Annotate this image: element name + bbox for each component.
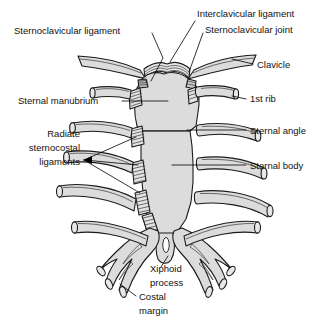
anatomy-figure: Sternoclavicular ligament Interclavicula… <box>0 0 333 323</box>
label-costal-line1: Costal <box>139 291 166 302</box>
label-costal-line2: margin <box>139 305 168 316</box>
label-xiphoid-line1: Xiphoid <box>150 263 182 274</box>
sternum-diagram: Sternoclavicular ligament Interclavicula… <box>0 0 333 323</box>
label-radiate-line3: ligaments <box>39 156 80 167</box>
xiphoid-foramen <box>163 238 169 253</box>
label-sternoclavicular-ligament: Sternoclavicular ligament <box>14 25 120 36</box>
label-xiphoid-line2: process <box>150 277 184 288</box>
label-sternal-angle: Sternal angle <box>250 125 306 136</box>
label-first-rib: 1st rib <box>250 93 276 104</box>
sternoclavicular-joint-left <box>138 79 148 88</box>
label-interclavicular-ligament: Interclavicular ligament <box>197 8 295 19</box>
label-clavicle: Clavicle <box>257 59 290 70</box>
label-radiate-line1: Radiate <box>47 128 80 139</box>
label-sternal-manubrium: Sternal manubrium <box>18 95 98 106</box>
label-sternoclavicular-joint: Sternoclavicular joint <box>205 24 293 35</box>
label-sternal-body: Sternal body <box>250 160 304 171</box>
label-radiate-line2: sternocostal <box>29 142 80 153</box>
